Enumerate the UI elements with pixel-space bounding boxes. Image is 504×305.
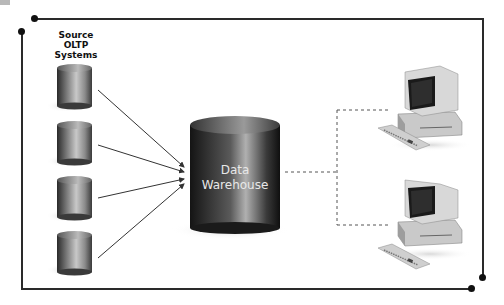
etl-arrows — [98, 90, 184, 258]
source-db-4 — [46, 231, 92, 276]
label-line-2: Warehouse — [190, 178, 280, 193]
data-warehouse-label: Data Warehouse — [190, 163, 280, 193]
network-connectors — [285, 110, 388, 225]
diagram-canvas — [0, 0, 504, 305]
source-db-1 — [46, 64, 92, 112]
label-line-1: Data — [190, 163, 280, 178]
client-workstation-2 — [378, 180, 472, 269]
source-db-2 — [46, 121, 92, 167]
client-workstation-1 — [378, 66, 472, 151]
source-db-3 — [46, 176, 92, 222]
